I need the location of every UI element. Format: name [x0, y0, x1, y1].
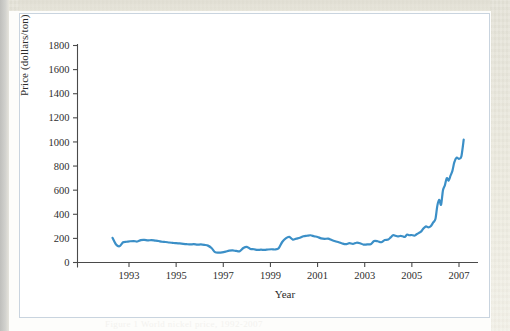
series-line-price [113, 140, 464, 253]
x-tick-label: 2005 [401, 270, 422, 281]
y-tick-label: 400 [54, 209, 70, 220]
x-tick-label: 2003 [354, 270, 375, 281]
chart-canvas: 0200400600800100012001400160018001993199… [0, 0, 510, 331]
line-chart: 0200400600800100012001400160018001993199… [0, 0, 510, 331]
x-tick-label: 2007 [449, 270, 470, 281]
y-tick-label: 1200 [49, 112, 70, 123]
caption-bleed-text: Figure 1 World nickel price, 1992-2007 [105, 319, 405, 330]
y-tick-label: 1400 [49, 88, 70, 99]
x-axis-title-text: Year [215, 288, 295, 300]
axis-lines [78, 44, 479, 263]
y-tick-label: 600 [54, 185, 70, 196]
y-axis-title: Price (dollars/ton) [18, 0, 30, 96]
x-tick-label: 1999 [260, 270, 281, 281]
x-axis-title: Year [0, 288, 510, 300]
x-tick-label: 2001 [307, 270, 328, 281]
y-tick-label: 1000 [49, 137, 70, 148]
y-tick-label: 1800 [49, 40, 70, 51]
y-tick-label: 0 [64, 257, 69, 268]
figure-root: 0200400600800100012001400160018001993199… [0, 0, 510, 331]
y-tick-label: 800 [54, 161, 70, 172]
x-tick-label: 1997 [213, 270, 234, 281]
x-tick-label: 1995 [166, 270, 187, 281]
x-tick-label: 1993 [119, 270, 140, 281]
y-tick-label: 1600 [49, 64, 70, 75]
y-tick-label: 200 [54, 233, 70, 244]
